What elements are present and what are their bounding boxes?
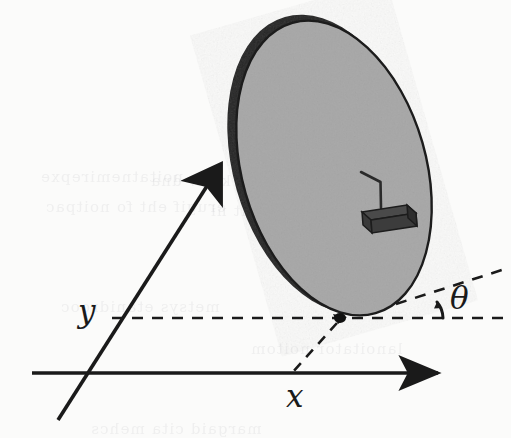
y-axis-line bbox=[58, 164, 221, 420]
theta-arc-marker bbox=[434, 302, 443, 318]
y-axis-label: y bbox=[78, 296, 96, 327]
rolling-disk bbox=[194, 0, 464, 339]
x-axis-label: x bbox=[286, 381, 303, 412]
disk-face bbox=[204, 0, 464, 339]
diagram-svg bbox=[0, 0, 511, 438]
contact-to-x-axis-dashed bbox=[291, 323, 337, 374]
theta-angle-label: θ bbox=[450, 283, 469, 314]
figure-canvas: noitatnemirepxedetaler krow dnaerugif eh… bbox=[0, 0, 511, 438]
